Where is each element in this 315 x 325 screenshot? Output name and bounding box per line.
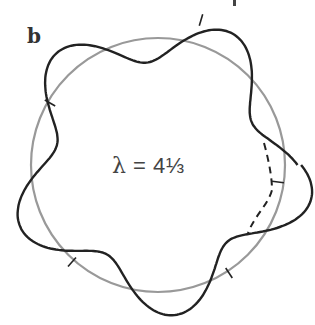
lambda-symbol: λ: [112, 153, 126, 178]
crossing-tick: [199, 14, 202, 26]
panel-label: b: [27, 24, 41, 48]
cropped-mark: [233, 0, 236, 6]
equals-sign: =: [133, 153, 146, 178]
wavelength-equation: λ = 4⅓: [112, 153, 185, 179]
figure-panel-b: b λ = 4⅓: [0, 0, 315, 325]
crossing-tick: [272, 181, 284, 183]
dashed-continuation-arc: [248, 143, 272, 233]
lambda-value: 4⅓: [153, 153, 185, 178]
